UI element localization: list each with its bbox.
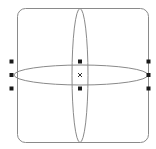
drawing-canvas[interactable] [0, 0, 156, 149]
handle-top-left[interactable] [10, 60, 14, 64]
handle-bottom-left[interactable] [10, 87, 14, 91]
handle-top-center[interactable] [78, 60, 82, 64]
rounded-rectangle-shape[interactable] [18, 9, 149, 143]
handle-bottom-center[interactable] [78, 87, 82, 91]
center-marker-icon [78, 73, 82, 77]
handle-top-right[interactable] [147, 60, 151, 64]
diagram-svg[interactable] [0, 0, 156, 149]
handle-bottom-right[interactable] [147, 87, 151, 91]
handle-middle-right[interactable] [147, 73, 151, 77]
horizontal-ellipse-shape[interactable] [14, 65, 148, 85]
handle-middle-left[interactable] [10, 73, 14, 77]
